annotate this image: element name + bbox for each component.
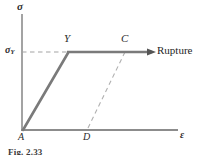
- point-label-yield: Y: [64, 33, 70, 44]
- x-axis-label: ε: [180, 130, 184, 140]
- rupture-label: Rupture: [157, 45, 192, 56]
- unloading-dashed-line: [87, 52, 125, 130]
- yield-stress-subscript: Y: [10, 48, 14, 55]
- point-label-residual-strain: D: [83, 132, 90, 142]
- yield-stress-label: σY: [5, 45, 14, 55]
- point-label-unload-start: C: [121, 33, 128, 44]
- stress-strain-plot: [0, 0, 200, 155]
- rupture-arrow-icon: [147, 49, 156, 56]
- point-label-origin: A: [18, 132, 24, 142]
- elastic-loading-curve: [23, 53, 68, 130]
- stress-strain-figure: σ ε σY Y C A D Rupture Fig. 2.33: [0, 0, 200, 155]
- y-axis-label: σ: [17, 1, 23, 12]
- figure-caption: Fig. 2.33: [8, 147, 43, 155]
